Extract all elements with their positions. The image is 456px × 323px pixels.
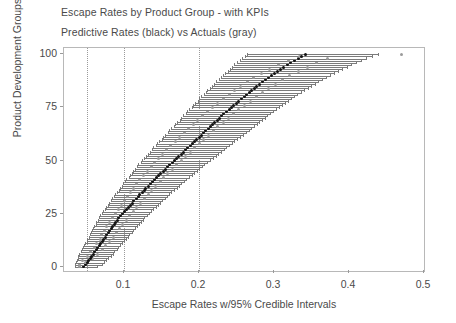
- credible-interval: [117, 192, 172, 193]
- credible-interval: [103, 212, 151, 213]
- actual-point: [104, 244, 107, 247]
- interval-cap-low: [117, 191, 118, 194]
- actual-point: [306, 66, 309, 69]
- actual-point: [174, 140, 177, 143]
- interval-cap-high: [204, 163, 205, 166]
- actual-point: [252, 76, 255, 79]
- actual-point: [267, 87, 270, 90]
- credible-interval: [87, 239, 125, 240]
- credible-interval: [83, 248, 118, 249]
- actual-point: [239, 85, 242, 88]
- actual-point: [288, 74, 291, 77]
- credible-interval: [153, 148, 226, 149]
- interval-cap-high: [184, 180, 185, 183]
- credible-interval: [219, 80, 323, 81]
- actual-point: [86, 255, 89, 258]
- actual-point: [120, 204, 123, 207]
- credible-interval: [106, 207, 156, 208]
- credible-interval: [228, 71, 338, 72]
- interval-cap-high: [102, 263, 103, 266]
- interval-cap-high: [153, 208, 154, 211]
- interval-cap-low: [230, 68, 231, 71]
- interval-cap-low: [181, 117, 182, 120]
- credible-interval: [114, 197, 167, 198]
- interval-cap-high: [213, 157, 214, 160]
- interval-cap-high: [240, 136, 241, 139]
- actual-point: [175, 163, 178, 166]
- y-axis-label: Product Development Groups: [11, 0, 23, 181]
- predictive-point: [182, 151, 185, 154]
- interval-cap-high: [141, 221, 142, 224]
- interval-cap-high: [304, 89, 305, 92]
- actual-point: [150, 165, 153, 168]
- credible-interval: [157, 144, 232, 145]
- credible-interval: [199, 99, 291, 100]
- interval-cap-high: [224, 148, 225, 151]
- interval-cap-low: [169, 129, 170, 132]
- interval-cap-high: [122, 242, 123, 245]
- credible-interval: [115, 195, 169, 196]
- interval-cap-high: [177, 187, 178, 190]
- interval-cap-high: [199, 168, 200, 171]
- credible-interval: [93, 229, 135, 230]
- actual-point: [128, 214, 131, 217]
- actual-point: [212, 129, 215, 132]
- actual-point: [222, 121, 225, 124]
- credible-interval: [242, 59, 367, 60]
- credible-interval: [102, 214, 149, 215]
- interval-cap-low: [204, 93, 205, 96]
- actual-point: [227, 117, 230, 120]
- interval-cap-low: [159, 140, 160, 143]
- actual-point: [108, 240, 111, 243]
- actual-point: [400, 53, 403, 56]
- credible-interval: [132, 173, 194, 174]
- actual-point: [189, 151, 192, 154]
- interval-cap-low: [133, 170, 134, 173]
- actual-point: [132, 210, 135, 213]
- interval-cap-high: [186, 178, 187, 181]
- actual-point: [277, 63, 280, 66]
- credible-interval: [150, 152, 221, 153]
- y-tick-label: 25: [45, 207, 57, 219]
- interval-cap-high: [318, 80, 319, 83]
- actual-point: [187, 127, 190, 130]
- interval-cap-high: [237, 138, 238, 141]
- credible-interval: [87, 241, 125, 242]
- y-tick-mark: [60, 213, 63, 214]
- interval-cap-high: [151, 210, 152, 213]
- interval-cap-low: [223, 74, 224, 77]
- interval-cap-low: [189, 108, 190, 111]
- interval-cap-high: [288, 100, 289, 103]
- actual-point: [108, 221, 111, 224]
- credible-interval: [146, 156, 216, 157]
- credible-interval: [111, 201, 163, 202]
- actual-point: [96, 253, 99, 256]
- interval-cap-high: [294, 95, 295, 98]
- actual-point: [216, 125, 219, 128]
- credible-interval: [138, 165, 204, 166]
- credible-interval: [162, 139, 238, 140]
- credible-interval: [92, 231, 133, 232]
- credible-interval: [193, 105, 282, 106]
- credible-interval: [82, 250, 117, 251]
- actual-point: [150, 189, 153, 192]
- interval-cap-high: [129, 233, 130, 236]
- interval-cap-high: [216, 155, 217, 158]
- interval-cap-high: [192, 174, 193, 177]
- interval-cap-high: [246, 131, 247, 134]
- interval-cap-high: [189, 176, 190, 179]
- actual-point: [166, 172, 169, 175]
- actual-point: [138, 178, 141, 181]
- interval-cap-high: [311, 85, 312, 88]
- actual-point: [159, 180, 162, 183]
- credible-interval: [221, 78, 326, 79]
- actual-point: [315, 61, 318, 64]
- y-tick-label: 50: [45, 154, 57, 166]
- credible-interval: [109, 203, 160, 204]
- interval-cap-high: [279, 106, 280, 109]
- y-tick-mark: [60, 106, 63, 107]
- interval-cap-low: [219, 78, 220, 81]
- predictive-point: [293, 59, 296, 62]
- actual-point: [147, 193, 150, 196]
- x-tick-label: 0.4: [341, 278, 356, 290]
